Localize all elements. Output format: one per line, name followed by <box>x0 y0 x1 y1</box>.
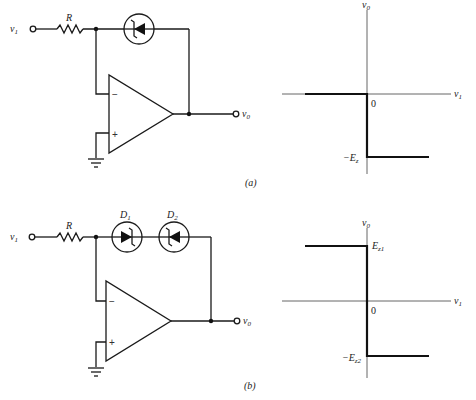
high-level-label: Ez1 <box>371 240 384 253</box>
origin-label: 0 <box>371 305 376 316</box>
resistor-b <box>57 233 83 241</box>
wire <box>96 133 109 158</box>
input-terminal-a <box>30 26 36 32</box>
inverting-sign: − <box>112 89 118 100</box>
ground-icon <box>88 368 104 376</box>
caption-a: (a) <box>245 177 257 189</box>
figure-canvas: v1 R − + v0 (a) <box>0 0 476 400</box>
zener-diode-icon <box>124 14 154 44</box>
wire <box>96 29 109 94</box>
wire <box>96 342 106 367</box>
transfer-curve <box>305 94 429 157</box>
diode1-label: D1 <box>119 209 131 222</box>
zener-diode-d1-icon <box>112 222 142 252</box>
noninverting-sign: + <box>112 129 118 140</box>
transfer-graph-a: v0 v1 0 −Ez <box>282 0 462 174</box>
wire <box>96 237 106 301</box>
inverting-sign: − <box>109 296 115 307</box>
output-label-b: v0 <box>243 315 251 328</box>
resistor-label-a: R <box>65 12 72 23</box>
x-axis-label: v1 <box>454 295 462 308</box>
ground-icon <box>88 159 104 167</box>
low-level-label: −Ez <box>343 152 359 165</box>
input-label-a: v1 <box>10 23 18 36</box>
transfer-graph-b: v0 v1 0 Ez1 −Ez2 <box>282 217 462 378</box>
resistor-label-b: R <box>65 220 72 231</box>
zener-diode-d2-icon <box>159 222 189 252</box>
noninverting-sign: + <box>109 337 115 348</box>
circuit-b: v1 R D1 D2 − + <box>10 209 256 392</box>
y-axis-label: v0 <box>362 0 370 12</box>
output-label-a: v0 <box>242 108 250 121</box>
origin-label: 0 <box>371 98 376 109</box>
x-axis-label: v1 <box>454 88 462 101</box>
op-amp-b <box>106 281 171 361</box>
junction-node <box>209 319 213 323</box>
diode2-label: D2 <box>166 209 178 222</box>
junction-node <box>187 112 191 116</box>
input-terminal-b <box>29 234 35 240</box>
resistor-a <box>57 25 83 33</box>
circuit-a: v1 R − + v0 (a) <box>10 12 257 189</box>
y-axis-label: v0 <box>362 217 370 230</box>
output-terminal-b <box>234 318 240 324</box>
low-level-label: −Ez2 <box>342 352 362 365</box>
input-label-b: v1 <box>10 231 18 244</box>
caption-b: (b) <box>244 380 256 392</box>
output-terminal-a <box>233 111 239 117</box>
op-amp-a <box>109 75 173 153</box>
